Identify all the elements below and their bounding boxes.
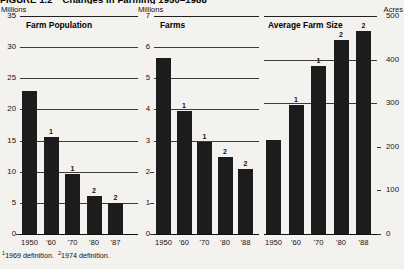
- y-axis-tick-label: 7: [132, 12, 150, 20]
- bar-footnote-marker: 1: [311, 57, 326, 65]
- y-axis-tick-label: 300: [386, 99, 404, 107]
- bar-fill: [156, 58, 171, 234]
- bar-fill: [197, 142, 212, 234]
- bar: [266, 16, 281, 234]
- bar-footnote-marker: 2: [218, 148, 233, 156]
- plot-area: 01234567Farms11221950'60'70'80'88: [154, 16, 259, 234]
- y-axis-tick-label: 5: [132, 74, 150, 82]
- bar: 2: [334, 16, 349, 234]
- figure-number: FIGURE 1.2: [0, 0, 53, 4]
- footnote-one: 11969 definition.: [2, 251, 54, 260]
- bar-fill: [266, 140, 281, 234]
- bar-fill: [289, 105, 304, 234]
- bar-fill: [22, 91, 37, 234]
- bar: 1: [311, 16, 326, 234]
- bar-footnote-marker: 1: [197, 133, 212, 141]
- y-axis-tick-label: 20: [0, 105, 16, 113]
- y-axis-tick-mark: [377, 190, 381, 191]
- bar: 2: [108, 16, 123, 234]
- bar-footnote-marker: 2: [334, 31, 349, 39]
- y-axis-tick-label: 400: [386, 56, 404, 64]
- chart-panel-farms: Millions 01234567Farms11221950'60'70'80'…: [137, 5, 265, 245]
- footnote-two-text: 1974 definition.: [61, 251, 110, 260]
- bar: 2: [356, 16, 371, 234]
- bar-fill: [108, 203, 123, 234]
- bar: 2: [238, 16, 253, 234]
- y-axis-tick-label: 6: [132, 43, 150, 51]
- y-axis-tick-label: 25: [0, 74, 16, 82]
- y-axis-tick-label: 1: [132, 199, 150, 207]
- bar: [22, 16, 37, 234]
- bar-fill: [356, 31, 371, 234]
- bar: 2: [218, 16, 233, 234]
- chart-panels: Millions 05101520253035Farm Population11…: [0, 5, 404, 245]
- bar-series: 1122: [264, 16, 377, 234]
- axis-zero-line: [20, 234, 138, 235]
- y-axis-tick-label: 2: [132, 168, 150, 176]
- bar-fill: [65, 174, 80, 234]
- bar: [156, 16, 171, 234]
- y-axis-tick-label: 15: [0, 137, 16, 145]
- footnote-one-text: 1969 definition.: [5, 251, 54, 260]
- x-axis-tick-label: '88: [232, 238, 259, 247]
- bar: 1: [44, 16, 59, 234]
- bar-fill: [44, 137, 59, 234]
- y-axis-tick-label: 30: [0, 43, 16, 51]
- y-axis-tick-label: 3: [132, 137, 150, 145]
- footnote-two: 21974 definition.: [58, 251, 110, 260]
- plot-area: 0100200300400500Average Farm Size1122195…: [264, 16, 377, 234]
- y-axis-tick-label: 5: [0, 199, 16, 207]
- axis-zero-line: [264, 234, 377, 235]
- plot-area: 05101520253035Farm Population11221950'60…: [20, 16, 138, 234]
- bar-footnote-marker: 2: [108, 194, 123, 202]
- bar: 1: [65, 16, 80, 234]
- x-axis-tick-label: '87: [102, 238, 129, 247]
- y-axis-tick-label: 35: [0, 12, 16, 20]
- y-axis-tick-label: 4: [132, 105, 150, 113]
- y-axis-tick-mark: [16, 234, 20, 235]
- figure-caption: Changes in Farming 1950–1988: [63, 0, 207, 4]
- axis-zero-line: [154, 234, 259, 235]
- figure-title: FIGURE 1.2 Changes in Farming 1950–1988: [0, 0, 404, 4]
- y-axis-tick-label: 0: [0, 230, 16, 238]
- bar-fill: [311, 66, 326, 234]
- bar-fill: [87, 196, 102, 234]
- bar-footnote-marker: 2: [356, 22, 371, 30]
- bar-footnote-marker: 2: [87, 187, 102, 195]
- bar-footnote-marker: 1: [177, 102, 192, 110]
- y-axis-tick-label: 0: [386, 230, 404, 238]
- bar-footnote-marker: 1: [65, 165, 80, 173]
- bar: 1: [197, 16, 212, 234]
- y-axis-tick-label: 200: [386, 143, 404, 151]
- bar-fill: [177, 111, 192, 234]
- chart-panel-average-farm-size: Acres 0100200300400500Average Farm Size1…: [258, 5, 404, 245]
- chart-panel-farm-population: Millions 05101520253035Farm Population11…: [0, 5, 140, 245]
- bar: 1: [177, 16, 192, 234]
- footnotes: 11969 definition.21974 definition.: [2, 250, 402, 260]
- y-axis-tick-mark: [377, 147, 381, 148]
- x-axis-tick-label: '88: [350, 238, 377, 247]
- bar-footnote-marker: 1: [289, 96, 304, 104]
- bar: 2: [87, 16, 102, 234]
- y-axis-tick-label: 500: [386, 12, 404, 20]
- bar-footnote-marker: 2: [238, 160, 253, 168]
- bar-footnote-marker: 1: [44, 128, 59, 136]
- y-axis-tick-mark: [150, 234, 154, 235]
- bar-fill: [238, 169, 253, 234]
- bar-series: 1122: [20, 16, 138, 234]
- y-axis-tick-label: 10: [0, 168, 16, 176]
- bar-series: 1122: [154, 16, 259, 234]
- y-axis-tick-label: 100: [386, 186, 404, 194]
- bar-fill: [218, 157, 233, 234]
- bar-fill: [334, 40, 349, 234]
- bar: 1: [289, 16, 304, 234]
- y-axis-tick-label: 0: [132, 230, 150, 238]
- y-axis-tick-mark: [377, 234, 381, 235]
